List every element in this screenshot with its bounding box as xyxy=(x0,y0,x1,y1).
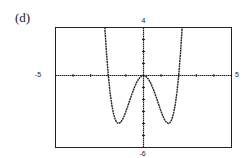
plot-area xyxy=(0,0,247,158)
axes xyxy=(56,28,232,148)
